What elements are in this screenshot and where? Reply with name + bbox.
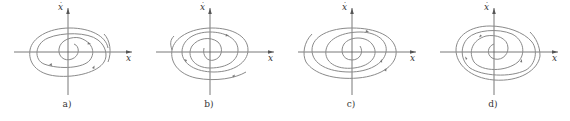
direction-arrow-icon (465, 57, 467, 60)
phase-portrait-a: x˙ x a) (0, 0, 142, 121)
spiral-trajectory (171, 28, 248, 80)
spiral-trajectory (456, 26, 540, 80)
direction-arrow-icon (384, 68, 387, 71)
direction-arrow-icon (88, 42, 92, 45)
y-axis-arrow-icon (66, 8, 70, 14)
direction-arrow-icon (479, 34, 482, 37)
y-axis-label: x˙ (342, 2, 347, 12)
phase-portrait-c: x˙ x c) (284, 0, 426, 121)
x-axis-label: x (268, 53, 273, 63)
x-axis-label: x (126, 53, 131, 63)
panel-caption: c) (280, 99, 422, 109)
direction-arrow-icon (366, 30, 369, 32)
panel-caption: a) (0, 99, 138, 109)
y-axis-label: x˙ (58, 2, 63, 12)
panel-caption: b) (138, 99, 280, 109)
y-axis-arrow-icon (492, 8, 496, 14)
direction-arrow-icon (92, 66, 95, 69)
phase-portrait-d: x˙ x d) (426, 0, 568, 121)
x-axis-label: x (552, 53, 557, 63)
panel-caption: d) (422, 99, 564, 109)
phase-portrait-b: x˙ x b) (142, 0, 284, 121)
y-axis-arrow-icon (208, 8, 212, 14)
y-axis-label: x˙ (484, 2, 489, 12)
y-axis-arrow-icon (350, 8, 354, 14)
y-axis-label: x˙ (200, 2, 205, 12)
x-axis-label: x (410, 53, 415, 63)
direction-arrow-icon (380, 59, 382, 62)
spiral-trajectory (304, 28, 396, 78)
